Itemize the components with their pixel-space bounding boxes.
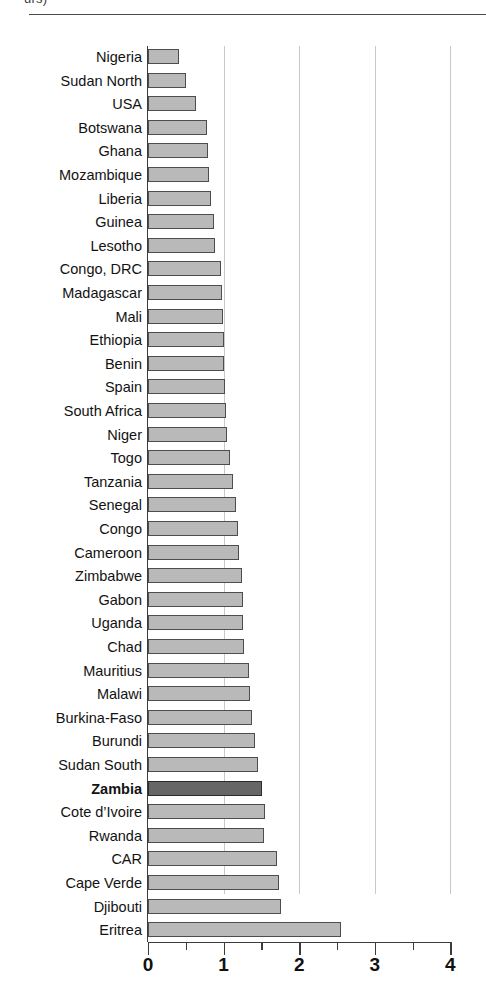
category-label-tanzania: Tanzania xyxy=(0,475,142,490)
category-label-uganda: Uganda xyxy=(0,616,142,631)
bar-usa xyxy=(148,96,196,111)
category-label-car: CAR xyxy=(0,852,142,867)
bar-rwanda xyxy=(148,828,264,843)
bar-sudan-south xyxy=(148,757,258,772)
x-axis-ticks: 01234 xyxy=(0,942,486,972)
category-label-madagascar: Madagascar xyxy=(0,286,142,301)
bar-uganda xyxy=(148,615,243,630)
category-label-sudan-south: Sudan South xyxy=(0,758,142,773)
category-label-nigeria: Nigeria xyxy=(0,50,142,65)
bar-botswana xyxy=(148,120,207,135)
category-label-sudan-north: Sudan North xyxy=(0,74,142,89)
category-label-mauritius: Mauritius xyxy=(0,664,142,679)
category-label-cote-d-ivoire: Cote d’Ivoire xyxy=(0,805,142,820)
bar-mauritius xyxy=(148,663,249,678)
bar-madagascar xyxy=(148,285,222,300)
caption-fragment: urs) xyxy=(24,0,47,6)
tick-label-3: 3 xyxy=(370,955,381,976)
gridline-3 xyxy=(375,46,376,894)
category-label-congo: Congo xyxy=(0,522,142,537)
category-label-ghana: Ghana xyxy=(0,144,142,159)
bar-ghana xyxy=(148,143,208,158)
category-label-guinea: Guinea xyxy=(0,215,142,230)
bar-lesotho xyxy=(148,238,215,253)
category-label-niger: Niger xyxy=(0,428,142,443)
bar-niger xyxy=(148,427,227,442)
tick-minor-0.5 xyxy=(186,942,187,950)
category-label-chad: Chad xyxy=(0,640,142,655)
tick-label-4: 4 xyxy=(445,955,456,976)
bar-sudan-north xyxy=(148,73,186,88)
category-labels: NigeriaSudan NorthUSABotswanaGhanaMozamb… xyxy=(0,46,147,942)
category-label-togo: Togo xyxy=(0,451,142,466)
bar-tanzania xyxy=(148,474,233,489)
tick-minor-2.5 xyxy=(337,942,338,950)
bar-nigeria xyxy=(148,49,179,64)
category-label-cape-verde: Cape Verde xyxy=(0,876,142,891)
bar-gabon xyxy=(148,592,243,607)
category-label-zimbabwe: Zimbabwe xyxy=(0,569,142,584)
category-label-zambia: Zambia xyxy=(0,782,142,797)
category-label-malawi: Malawi xyxy=(0,687,142,702)
category-label-mali: Mali xyxy=(0,310,142,325)
bar-burkina-faso xyxy=(148,710,252,725)
category-label-djibouti: Djibouti xyxy=(0,900,142,915)
bar-ethiopia xyxy=(148,332,224,347)
category-label-lesotho: Lesotho xyxy=(0,239,142,254)
category-label-burkina-faso: Burkina-Faso xyxy=(0,711,142,726)
category-label-mozambique: Mozambique xyxy=(0,168,142,183)
bar-cape-verde xyxy=(148,875,279,890)
category-label-south-africa: South Africa xyxy=(0,404,142,419)
bar-liberia xyxy=(148,191,211,206)
bar-cameroon xyxy=(148,545,239,560)
bar-eritrea xyxy=(148,922,341,937)
bar-mali xyxy=(148,309,223,324)
bar-chart-plot: NigeriaSudan NorthUSABotswanaGhanaMozamb… xyxy=(0,46,486,942)
bar-malawi xyxy=(148,686,250,701)
category-label-liberia: Liberia xyxy=(0,192,142,207)
bar-benin xyxy=(148,356,224,371)
header-divider xyxy=(29,14,486,15)
bar-car xyxy=(148,851,277,866)
bar-spain xyxy=(148,379,225,394)
tick-label-0: 0 xyxy=(143,955,154,976)
category-label-congo-drc: Congo, DRC xyxy=(0,262,142,277)
category-label-usa: USA xyxy=(0,97,142,112)
bar-senegal xyxy=(148,497,236,512)
category-label-burundi: Burundi xyxy=(0,734,142,749)
category-label-benin: Benin xyxy=(0,357,142,372)
bar-congo xyxy=(148,521,238,536)
category-label-eritrea: Eritrea xyxy=(0,923,142,938)
bar-chad xyxy=(148,639,244,654)
tick-minor-1.5 xyxy=(261,942,262,950)
category-label-senegal: Senegal xyxy=(0,498,142,513)
bar-congo-drc xyxy=(148,261,221,276)
category-label-gabon: Gabon xyxy=(0,593,142,608)
bar-zambia xyxy=(148,781,262,796)
bar-djibouti xyxy=(148,899,281,914)
gridline-4 xyxy=(450,46,451,894)
tick-minor-3.5 xyxy=(413,942,414,950)
bar-guinea xyxy=(148,214,214,229)
tick-label-2: 2 xyxy=(294,955,305,976)
bar-zimbabwe xyxy=(148,568,242,583)
tick-label-1: 1 xyxy=(218,955,229,976)
bars-panel xyxy=(148,46,486,942)
figure: urs) NigeriaSudan NorthUSABotswanaGhanaM… xyxy=(0,0,486,1008)
category-label-rwanda: Rwanda xyxy=(0,829,142,844)
bar-mozambique xyxy=(148,167,209,182)
category-label-botswana: Botswana xyxy=(0,121,142,136)
bar-togo xyxy=(148,450,230,465)
category-label-ethiopia: Ethiopia xyxy=(0,333,142,348)
y-axis-line xyxy=(147,46,148,942)
bar-burundi xyxy=(148,733,255,748)
bar-south-africa xyxy=(148,403,226,418)
category-label-spain: Spain xyxy=(0,380,142,395)
category-label-cameroon: Cameroon xyxy=(0,546,142,561)
bar-cote-d-ivoire xyxy=(148,804,265,819)
gridline-2 xyxy=(299,46,300,894)
